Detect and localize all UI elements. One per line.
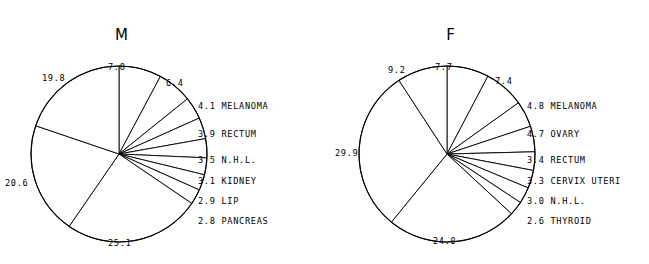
legend-label: OVARY: [551, 129, 580, 139]
legend-label: CERVIX UTERI: [551, 176, 622, 186]
value-label-female-top: 7.7: [435, 62, 453, 72]
legend-value: 4.8: [527, 101, 545, 111]
legend-value: 2.6: [527, 216, 545, 226]
value-label-male-left: 20.6: [5, 178, 29, 188]
value-label-female-upper-left: 9.2: [388, 65, 406, 75]
legend-value: 3.4: [527, 155, 545, 165]
legend-item-female-4: 3.0 N.H.L.: [527, 196, 586, 206]
legend-value: 3.9: [198, 129, 216, 139]
value-label-female-bottom: 24.0: [433, 236, 457, 246]
legend-item-female-5: 2.6 THYROID: [527, 216, 592, 226]
value-label-male-bottom: 25.1: [108, 238, 132, 248]
value-label-male-upper-left: 19.8: [42, 73, 66, 83]
pie-panel-male: M: [0, 0, 324, 264]
legend-value: 2.8: [198, 216, 216, 226]
pie-chart-female: [325, 0, 649, 264]
legend-value: 4.7: [527, 129, 545, 139]
legend-value: 3.0: [527, 196, 545, 206]
legend-value: 4.1: [198, 101, 216, 111]
value-label-male-upper-right: 6.4: [166, 78, 184, 88]
legend-label: N.H.L.: [222, 155, 257, 165]
legend-label: MELANOMA: [551, 101, 598, 111]
legend-label: MELANOMA: [222, 101, 269, 111]
value-label-male-top: 7.8: [108, 62, 126, 72]
figure-root: M: [0, 0, 649, 264]
legend-item-male-0: 4.1 MELANOMA: [198, 101, 269, 111]
legend-label: LIP: [222, 196, 240, 206]
legend-item-female-1: 4.7 OVARY: [527, 129, 580, 139]
legend-label: KIDNEY: [222, 176, 257, 186]
legend-value: 2.9: [198, 196, 216, 206]
pie-panel-female: F: [325, 0, 649, 264]
legend-item-female-2: 3.4 RECTUM: [527, 155, 586, 165]
legend-item-female-0: 4.8 MELANOMA: [527, 101, 598, 111]
legend-label: THYROID: [551, 216, 592, 226]
legend-value: 3.3: [527, 176, 545, 186]
legend-label: N.H.L.: [551, 196, 586, 206]
pie-chart-male: [0, 0, 324, 264]
legend-item-male-1: 3.9 RECTUM: [198, 129, 257, 139]
legend-value: 3.5: [198, 155, 216, 165]
legend-label: RECTUM: [222, 129, 257, 139]
legend-item-male-3: 3.1 KIDNEY: [198, 176, 257, 186]
legend-label: RECTUM: [551, 155, 586, 165]
legend-value: 3.1: [198, 176, 216, 186]
value-label-female-upper-right: 7.4: [495, 76, 513, 86]
legend-item-male-4: 2.9 LIP: [198, 196, 239, 206]
legend-item-male-5: 2.8 PANCREAS: [198, 216, 269, 226]
legend-item-female-3: 3.3 CERVIX UTERI: [527, 176, 621, 186]
legend-label: PANCREAS: [222, 216, 269, 226]
value-label-female-left: 29.9: [335, 148, 359, 158]
legend-item-male-2: 3.5 N.H.L.: [198, 155, 257, 165]
